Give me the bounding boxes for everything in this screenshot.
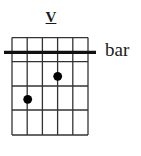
chord-diagram: V bar	[0, 0, 141, 156]
finger-dot	[23, 95, 32, 104]
finger-dot	[53, 72, 62, 81]
fretboard-grid	[0, 0, 141, 156]
